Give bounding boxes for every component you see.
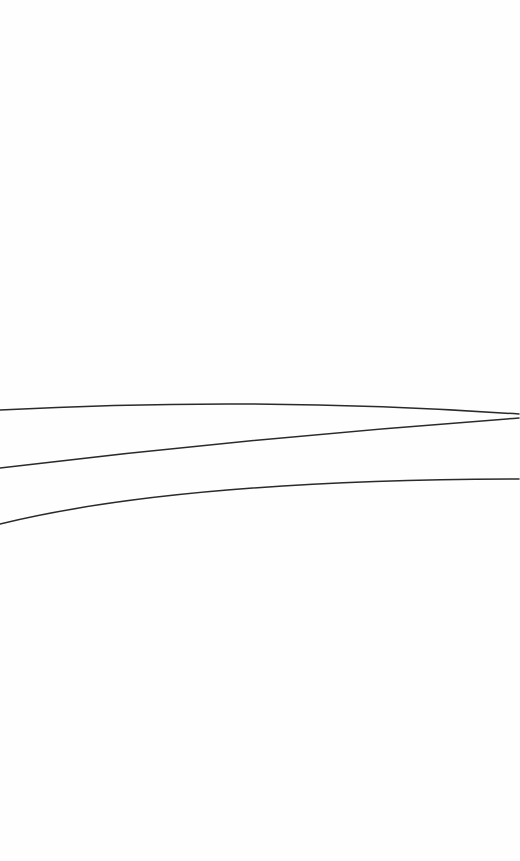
blank-canvas	[0, 0, 520, 861]
upper-curve	[0, 404, 519, 414]
line-drawing	[0, 0, 520, 861]
middle-line	[0, 418, 519, 468]
lower-curve	[0, 479, 519, 524]
